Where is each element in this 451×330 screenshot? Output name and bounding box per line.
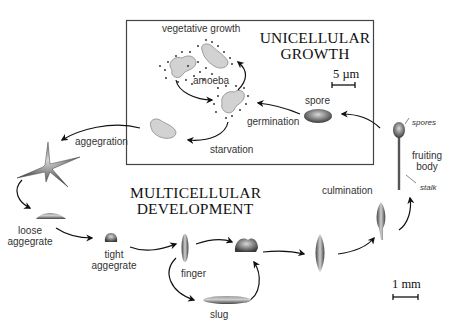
spore-shape — [304, 109, 332, 123]
unicellular-title: UNICELLULAR GROWTH — [255, 30, 375, 62]
label-spore: spore — [305, 95, 330, 106]
tight-aggregate — [105, 233, 117, 242]
label-finger: finger — [181, 268, 206, 279]
label-tight-aggregate: tight aggegrate — [88, 249, 140, 271]
label-loose-aggregate: loose aggegrate — [4, 225, 56, 247]
label-amoeba: amoeba — [193, 75, 229, 86]
scale-label-5um: 5 µm — [333, 67, 359, 82]
loose-aggregate — [36, 213, 66, 219]
aggregation-star — [17, 142, 80, 187]
label-culmination: culmination — [322, 185, 373, 196]
label-germination: germination — [247, 116, 299, 127]
scale-bar-1mm — [393, 294, 418, 300]
multicellular-title: MULTICELLULAR DEVELOPMENT — [130, 185, 260, 217]
finger-shape — [182, 234, 189, 262]
scale-label-1mm: 1 mm — [392, 277, 421, 292]
late-culminant — [377, 202, 386, 240]
mexican-hat — [235, 238, 258, 252]
label-spores: spores — [412, 117, 436, 128]
label-vegetative-growth: vegetative growth — [162, 23, 240, 34]
culmination-shape — [316, 234, 325, 272]
label-stalk: stalk — [420, 182, 436, 193]
label-starvation: starvation — [210, 144, 253, 155]
scale-bar-5um — [332, 82, 355, 88]
slug-shape — [203, 296, 251, 304]
label-aggregation: aggegration — [75, 136, 128, 147]
label-fruiting-body: fruiting body — [405, 150, 449, 172]
label-slug: slug — [210, 309, 228, 320]
life-cycle-diagram — [0, 0, 451, 330]
